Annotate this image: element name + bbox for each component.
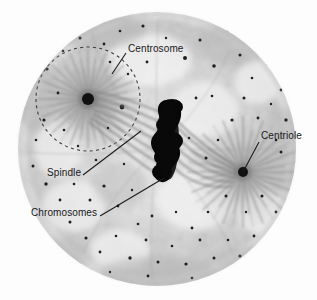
annotation-label-chromosomes: Chromosomes [31,207,97,218]
annotation-label-spindle: Spindle [47,167,81,178]
micrograph-figure: Centrosome Centriole Spindle Chromosomes [0,0,317,300]
left-centriole-dot [79,90,97,108]
annotation-label-centrosome: Centrosome [128,43,183,54]
annotation-label-centriole: Centriole [261,130,302,141]
